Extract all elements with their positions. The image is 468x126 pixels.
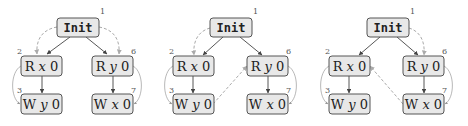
dashed-edge	[409, 28, 424, 55]
node-init: Init 1	[210, 7, 258, 37]
node-label: Init	[374, 21, 403, 35]
node-label: Init	[217, 21, 246, 35]
node-number: 3	[17, 86, 22, 95]
side-edge	[288, 66, 296, 104]
node-label: R y 0	[407, 59, 441, 74]
node-label: Init	[64, 21, 93, 35]
node-read-x: R x 0 2	[17, 47, 62, 76]
side-edge	[133, 66, 141, 104]
node-number: 7	[131, 86, 136, 95]
node-read-y: R y 0 6	[92, 47, 136, 76]
node-label: W y 0	[175, 97, 212, 112]
node-number: 1	[410, 7, 415, 16]
node-write-y: W y 0 3	[325, 86, 370, 114]
node-number: 1	[253, 7, 258, 16]
node-number: 7	[286, 86, 291, 95]
edge	[359, 37, 380, 55]
node-number: 6	[286, 47, 291, 56]
node-label: W x 0	[94, 97, 131, 112]
node-number: 2	[17, 47, 22, 56]
node-init: Init 1	[57, 7, 105, 37]
node-label: R x 0	[177, 59, 211, 74]
node-label: W y 0	[23, 97, 60, 112]
edge	[240, 37, 262, 55]
node-number: 6	[442, 47, 447, 56]
side-edge	[13, 66, 21, 104]
side-edge	[444, 66, 452, 104]
node-label: R y 0	[96, 59, 130, 74]
node-number: 6	[131, 47, 136, 56]
node-label: R x 0	[333, 59, 367, 74]
node-init: Init 1	[367, 7, 415, 37]
node-number: 1	[100, 7, 105, 16]
node-label: R y 0	[251, 59, 285, 74]
side-edge	[165, 66, 173, 104]
edge	[203, 37, 223, 55]
node-number: 2	[325, 47, 330, 56]
node-write-x: W x 0 7	[247, 86, 291, 114]
node-write-y: W y 0 3	[169, 86, 214, 114]
node-read-y: R y 0 6	[247, 47, 291, 76]
node-write-y: W y 0 3	[17, 86, 62, 114]
node-label: W x 0	[405, 97, 442, 112]
node-number: 7	[442, 86, 447, 95]
diagram-2: Init 1 R x 0 2 W y 0 3 R y 0 6 W x 0 7	[165, 7, 297, 114]
node-number: 2	[169, 47, 174, 56]
node-number: 3	[325, 86, 330, 95]
node-number: 3	[169, 86, 174, 95]
node-label: R x 0	[25, 59, 59, 74]
execution-graphs: Init 1 R x 0 2 W y 0 3 R y 0 6 W x 0 7	[0, 0, 468, 126]
side-edge	[321, 66, 329, 104]
dashed-edge	[370, 66, 403, 104]
node-write-x: W x 0 7	[92, 86, 136, 114]
diagram-1: Init 1 R x 0 2 W y 0 3 R y 0 6 W x 0 7	[13, 7, 142, 114]
edge	[397, 37, 418, 55]
dashed-edge	[37, 27, 57, 54]
edge	[47, 37, 70, 54]
diagram-3: Init 1 R x 0 2 W y 0 3 R y 0 6 W x 0 7	[321, 7, 453, 114]
dashed-edge	[213, 66, 247, 104]
node-label: W y 0	[331, 97, 368, 112]
node-write-x: W x 0 7	[403, 86, 447, 114]
node-read-y: R y 0 6	[403, 47, 447, 76]
node-label: W x 0	[249, 97, 286, 112]
edge	[86, 37, 107, 54]
